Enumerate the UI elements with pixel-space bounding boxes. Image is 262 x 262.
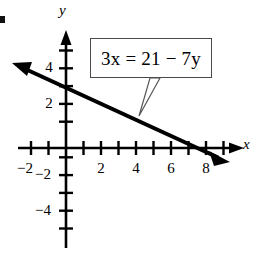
x-axis-label: x — [243, 136, 250, 153]
y-axis-label: y — [59, 2, 66, 19]
callout-leader — [139, 78, 160, 116]
graph-figure: 3x = 21 − 7y y x −2 2 4 6 8 4 2 −2 −4 — [0, 0, 262, 262]
y-tick-label-neg4: −4 — [32, 202, 54, 219]
x-tick-label-4: 4 — [125, 160, 147, 177]
y-tick-label-4: 4 — [38, 59, 60, 76]
y-axis — [59, 30, 73, 248]
y-tick-label-2: 2 — [38, 95, 60, 112]
x-tick-label-6: 6 — [160, 160, 182, 177]
x-tick-label-8: 8 — [195, 160, 217, 177]
equation-text: 3x = 21 − 7y — [101, 49, 201, 68]
y-tick-label-neg2: −2 — [32, 166, 54, 183]
equation-callout-box: 3x = 21 − 7y — [90, 38, 212, 78]
x-tick-label-2: 2 — [90, 160, 112, 177]
